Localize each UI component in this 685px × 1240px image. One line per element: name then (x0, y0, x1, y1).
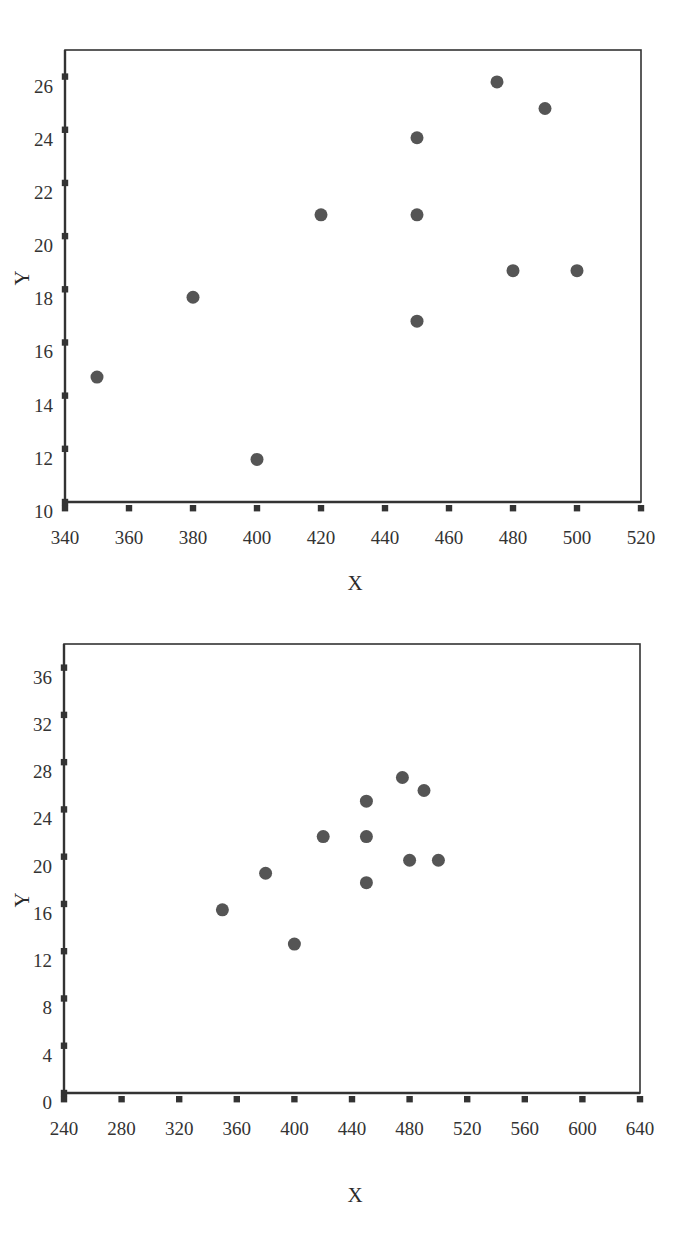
data-point: (400, 12.6) (288, 938, 301, 951)
x-tick-label: 400 (243, 528, 272, 547)
x-tick-mark (62, 505, 68, 511)
x-tick-label: 460 (435, 528, 464, 547)
plot-area-bottom: (350, 15.5)(380, 18.6)(400, 12.6)(420, 2… (0, 620, 685, 1240)
x-tick-mark (522, 1096, 528, 1102)
x-tick-label: 520 (627, 528, 656, 547)
data-point: (480, 18.7) (507, 264, 520, 277)
y-tick-mark (61, 1043, 67, 1049)
y-tick-mark (62, 127, 68, 133)
y-tick-label: 10 (0, 502, 53, 521)
data-point: (450, 17.8) (360, 876, 373, 889)
data-point: (450, 24.7) (360, 795, 373, 808)
data-point: (400, 11.6) (251, 453, 264, 466)
x-tick-label: 280 (107, 1119, 136, 1138)
x-tick-mark (254, 505, 260, 511)
y-tick-label: 24 (0, 809, 52, 828)
y-tick-label: 32 (0, 714, 52, 733)
x-tick-mark (349, 1096, 355, 1102)
x-tick-label: 400 (280, 1119, 309, 1138)
x-tick-mark (510, 505, 516, 511)
x-tick-mark (638, 505, 644, 511)
y-tick-mark (61, 664, 67, 670)
x-axis-title-top: X (347, 573, 362, 594)
x-tick-label: 480 (395, 1119, 424, 1138)
data-point: (450, 23.7) (411, 131, 424, 144)
x-tick-mark (234, 1096, 240, 1102)
x-tick-label: 440 (338, 1119, 367, 1138)
x-tick-mark (318, 505, 324, 511)
x-tick-label: 340 (51, 528, 80, 547)
x-tick-label: 320 (165, 1119, 194, 1138)
x-tick-label: 360 (115, 528, 144, 547)
y-tick-label: 26 (0, 76, 53, 95)
scatter-plot-bottom: (350, 15.5)(380, 18.6)(400, 12.6)(420, 2… (0, 620, 685, 1240)
y-tick-label: 16 (0, 342, 53, 361)
x-tick-mark (291, 1096, 297, 1102)
x-tick-mark (176, 1096, 182, 1102)
x-tick-mark (637, 1096, 643, 1102)
y-tick-mark (61, 759, 67, 765)
data-point: (450, 20.8) (411, 208, 424, 221)
y-tick-label: 22 (0, 182, 53, 201)
data-point: (450, 21.7) (360, 830, 373, 843)
x-tick-label: 560 (511, 1119, 540, 1138)
y-tick-mark (61, 806, 67, 812)
x-tick-mark (126, 505, 132, 511)
y-tick-label: 12 (0, 951, 52, 970)
y-tick-mark (62, 180, 68, 186)
y-tick-label: 28 (0, 762, 52, 781)
y-tick-label: 14 (0, 395, 53, 414)
x-tick-mark (118, 1096, 124, 1102)
y-tick-mark (61, 948, 67, 954)
data-point: (450, 16.8) (411, 315, 424, 328)
y-tick-label: 24 (0, 129, 53, 148)
x-tick-label: 600 (568, 1119, 597, 1138)
x-tick-label: 360 (223, 1119, 252, 1138)
x-tick-mark (190, 505, 196, 511)
y-tick-label: 18 (0, 289, 53, 308)
data-point: (490, 24.8) (539, 102, 552, 115)
x-tick-mark (382, 505, 388, 511)
x-tick-label: 520 (453, 1119, 482, 1138)
x-axis-title-bottom: X (347, 1185, 362, 1206)
x-tick-mark (574, 505, 580, 511)
x-tick-mark (464, 1096, 470, 1102)
data-point: (420, 21.7) (317, 830, 330, 843)
x-tick-label: 380 (179, 528, 208, 547)
data-point: (490, 25.6) (418, 784, 431, 797)
y-tick-mark (62, 446, 68, 452)
data-point: (500, 19.7) (432, 854, 445, 867)
plot-frame (64, 644, 640, 1093)
y-tick-mark (61, 1090, 67, 1096)
y-tick-mark (62, 499, 68, 505)
x-tick-label: 480 (499, 528, 528, 547)
data-point: (350, 15.5) (216, 903, 229, 916)
y-tick-label: 12 (0, 448, 53, 467)
data-point: (380, 18.6) (259, 867, 272, 880)
y-tick-mark (61, 853, 67, 859)
y-tick-label: 8 (0, 998, 52, 1017)
plot-frame (65, 50, 641, 502)
data-point: (480, 19.7) (403, 854, 416, 867)
data-point: (350, 14.7) (91, 371, 104, 384)
x-tick-label: 640 (626, 1119, 655, 1138)
y-tick-mark (61, 712, 67, 718)
y-tick-mark (62, 339, 68, 345)
y-tick-label: 0 (0, 1093, 52, 1112)
y-tick-mark (61, 901, 67, 907)
y-tick-mark (62, 233, 68, 239)
y-axis-title-top: Y (12, 270, 33, 285)
y-tick-mark (61, 995, 67, 1001)
x-tick-mark (579, 1096, 585, 1102)
x-tick-mark (61, 1096, 67, 1102)
y-tick-mark (62, 286, 68, 292)
y-tick-mark (62, 73, 68, 79)
y-tick-mark (62, 392, 68, 398)
x-tick-mark (446, 505, 452, 511)
y-tick-label: 20 (0, 236, 53, 255)
data-point: (475, 25.8) (491, 75, 504, 88)
data-point: (420, 20.8) (315, 208, 328, 221)
y-tick-label: 36 (0, 667, 52, 686)
data-point: (500, 18.7) (571, 264, 584, 277)
scatter-plot-top: (350, 14.7)(380, 17.7)(400, 11.6)(420, 2… (0, 0, 685, 620)
